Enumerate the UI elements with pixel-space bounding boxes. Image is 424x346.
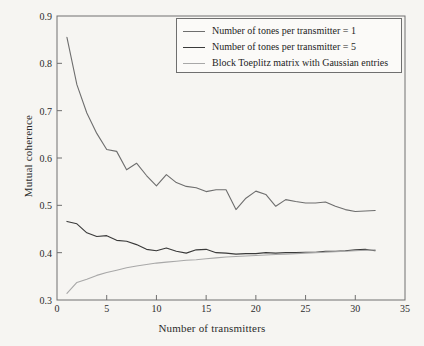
- legend-item-label: Number of tones per transmitter = 5: [212, 39, 356, 55]
- legend-color-swatch: [183, 63, 205, 64]
- x-tick-label: 0: [55, 303, 60, 314]
- y-tick-label: 0.6: [18, 153, 52, 164]
- x-tick-label: 10: [151, 303, 161, 314]
- legend-item-label: Block Toeplitz matrix with Gaussian entr…: [212, 55, 388, 71]
- y-tick-label: 0.4: [18, 247, 52, 258]
- y-tick-label: 0.5: [18, 200, 52, 211]
- y-tick-label: 0.8: [18, 58, 52, 69]
- legend-color-swatch: [183, 47, 205, 48]
- x-tick-label: 5: [104, 303, 109, 314]
- legend-item: Number of tones per transmitter = 5: [183, 39, 395, 55]
- legend-item: Number of tones per transmitter = 1: [183, 23, 395, 39]
- y-tick-label: 0.7: [18, 105, 52, 116]
- chart-legend: Number of tones per transmitter = 1 Numb…: [176, 18, 402, 73]
- x-axis-title: Number of transmitters: [0, 322, 424, 334]
- legend-item-label: Number of tones per transmitter = 1: [212, 23, 356, 39]
- legend-item: Block Toeplitz matrix with Gaussian entr…: [183, 55, 395, 71]
- x-tick-label: 30: [350, 303, 360, 314]
- x-tick-label: 35: [400, 303, 410, 314]
- x-tick-label: 15: [201, 303, 211, 314]
- legend-color-swatch: [183, 31, 205, 32]
- y-tick-label: 0.9: [18, 11, 52, 22]
- x-tick-label: 25: [301, 303, 311, 314]
- y-tick-label: 0.3: [18, 295, 52, 306]
- x-tick-label: 20: [251, 303, 261, 314]
